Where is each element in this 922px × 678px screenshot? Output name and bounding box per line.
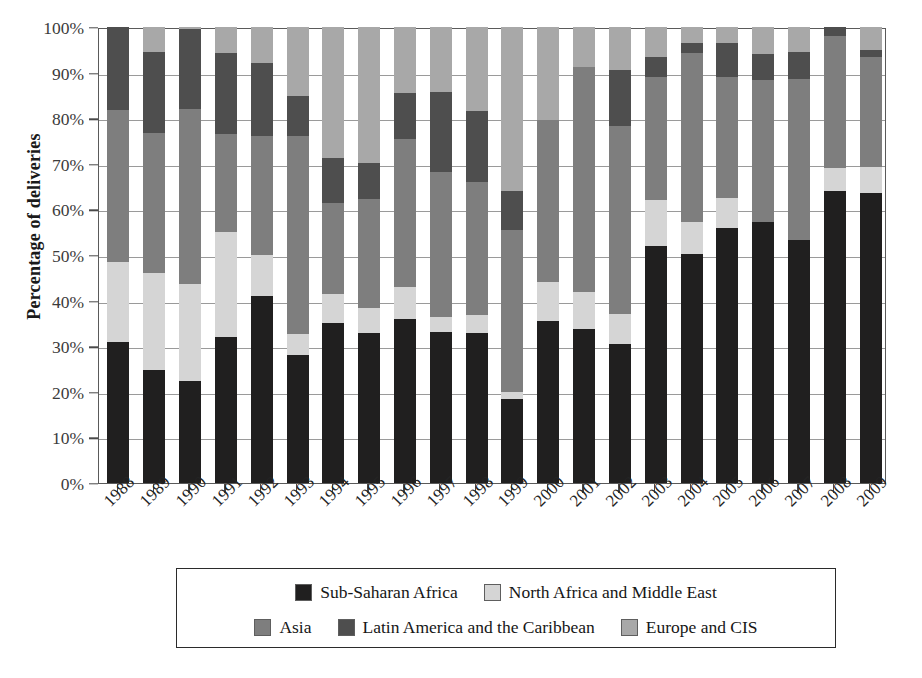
- bar-segment: [501, 399, 523, 483]
- bar-segment: [107, 110, 129, 262]
- bar-segment: [322, 294, 344, 324]
- bar-segment: [788, 27, 810, 52]
- bar-segment: [716, 228, 738, 483]
- bar-segment: [215, 27, 237, 53]
- bar-segment: [179, 381, 201, 483]
- bar-segment: [752, 54, 774, 80]
- bar-segment: [466, 182, 488, 315]
- bar-segment: [645, 200, 667, 246]
- y-axis-tick-mark: [89, 210, 98, 211]
- bar-segment: [752, 80, 774, 221]
- bar-segment: [824, 191, 846, 483]
- legend-item: Asia: [254, 617, 311, 638]
- bar-segment: [179, 27, 201, 29]
- bar-1988: [107, 27, 129, 483]
- bar-segment: [358, 199, 380, 308]
- bar-segment: [179, 29, 201, 109]
- bar-segment: [143, 27, 165, 52]
- legend-row: Sub-Saharan AfricaNorth Africa and Middl…: [177, 572, 835, 612]
- bar-segment: [430, 27, 452, 92]
- bar-segment: [716, 27, 738, 43]
- y-axis-tick-mark: [89, 438, 98, 439]
- bar-segment: [143, 273, 165, 370]
- y-axis-tick-mark: [89, 255, 98, 256]
- bar-segment: [358, 333, 380, 483]
- y-axis-tick-label: 70%: [14, 154, 84, 175]
- y-axis-tick-label: 80%: [14, 109, 84, 130]
- bar-segment: [681, 222, 703, 254]
- legend-label: Europe and CIS: [646, 617, 758, 638]
- bar-segment: [537, 27, 559, 120]
- y-axis-tick-label: 30%: [14, 337, 84, 358]
- bar-segment: [716, 198, 738, 228]
- y-axis-tick-label: 50%: [14, 246, 84, 267]
- legend-label: Latin America and the Caribbean: [363, 617, 595, 638]
- bar-segment: [215, 53, 237, 134]
- bar-segment: [107, 27, 129, 110]
- bar-segment: [394, 27, 416, 93]
- y-axis-tick-label: 20%: [14, 382, 84, 403]
- bar-segment: [215, 134, 237, 232]
- bar-segment: [322, 158, 344, 203]
- bar-segment: [752, 27, 774, 54]
- bar-2003: [645, 27, 667, 483]
- bar-segment: [394, 139, 416, 287]
- bar-segment: [179, 109, 201, 284]
- legend-label: Sub-Saharan Africa: [320, 582, 458, 603]
- bar-segment: [716, 77, 738, 198]
- bar-segment: [215, 337, 237, 483]
- bar-2008: [824, 27, 846, 483]
- bar-segment: [645, 57, 667, 78]
- y-axis-tick-mark: [89, 118, 98, 119]
- y-axis-tick-mark: [89, 346, 98, 347]
- bar-segment: [681, 27, 703, 43]
- bar-segment: [466, 27, 488, 111]
- bar-segment: [143, 370, 165, 483]
- bar-segment: [681, 254, 703, 483]
- bar-segment: [179, 284, 201, 381]
- legend-item: Europe and CIS: [621, 617, 758, 638]
- bar-segment: [430, 172, 452, 317]
- bar-segment: [824, 27, 846, 36]
- bar-segment: [788, 240, 810, 483]
- bar-segment: [573, 67, 595, 293]
- plot-area: [98, 28, 886, 484]
- bar-segment: [645, 77, 667, 200]
- bar-segment: [251, 63, 273, 137]
- bar-segment: [537, 321, 559, 483]
- bar-segment: [609, 314, 631, 344]
- bar-segment: [681, 53, 703, 222]
- bar-segment: [645, 27, 667, 57]
- legend-item: Latin America and the Caribbean: [338, 617, 595, 638]
- legend-swatch-icon: [254, 619, 271, 636]
- bar-segment: [501, 191, 523, 230]
- bar-segment: [788, 52, 810, 79]
- bar-1993: [287, 27, 309, 483]
- bar-segment: [287, 136, 309, 334]
- bar-2006: [752, 27, 774, 483]
- chart-legend: Sub-Saharan AfricaNorth Africa and Middl…: [176, 568, 836, 648]
- legend-label: North Africa and Middle East: [509, 582, 717, 603]
- legend-swatch-icon: [338, 619, 355, 636]
- legend-item: Sub-Saharan Africa: [295, 582, 458, 603]
- bar-segment: [752, 222, 774, 483]
- bar-2000: [537, 27, 559, 483]
- bar-2001: [573, 27, 595, 483]
- legend-label: Asia: [279, 617, 311, 638]
- bar-segment: [573, 27, 595, 67]
- bar-segment: [824, 168, 846, 191]
- bar-segment: [322, 323, 344, 483]
- bar-segment: [215, 232, 237, 337]
- bar-segment: [251, 136, 273, 255]
- y-axis-tick-mark: [89, 164, 98, 165]
- bar-segment: [716, 43, 738, 77]
- bar-segment: [251, 296, 273, 483]
- bar-2009: [860, 27, 882, 483]
- bar-segment: [537, 120, 559, 283]
- y-axis-tick-label: 90%: [14, 63, 84, 84]
- y-axis-tick-mark: [89, 301, 98, 302]
- bar-segment: [860, 50, 882, 56]
- y-axis-tick-label: 40%: [14, 291, 84, 312]
- bar-2004: [681, 27, 703, 483]
- bar-segment: [322, 203, 344, 294]
